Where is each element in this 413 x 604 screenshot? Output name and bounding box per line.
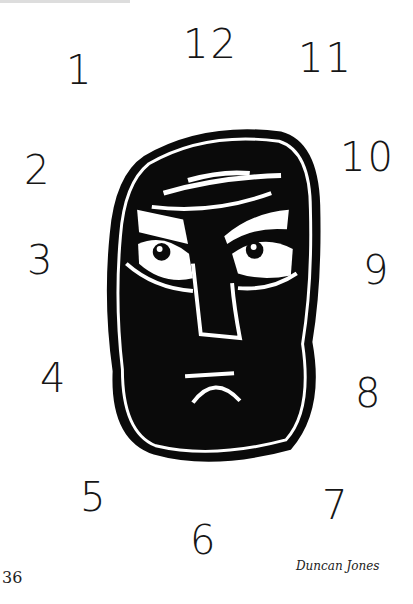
clock-number-9: 9 <box>363 250 390 290</box>
clock-number-6: 6 <box>190 520 217 560</box>
clock-number-12: 12 <box>183 24 238 64</box>
clock-number-5: 5 <box>80 477 107 517</box>
cut-off-header <box>0 0 130 3</box>
clock-number-7: 7 <box>322 485 349 525</box>
clock-number-3: 3 <box>27 240 54 280</box>
author-credit: Duncan Jones <box>296 559 380 573</box>
linocut-face-illustration <box>95 113 330 473</box>
clock-number-8: 8 <box>355 373 382 413</box>
clock-number-11: 11 <box>298 38 353 78</box>
page-number: 36 <box>2 568 22 587</box>
clock-number-4: 4 <box>40 358 67 398</box>
clock-number-1: 1 <box>66 50 93 90</box>
clock-number-2: 2 <box>24 150 51 190</box>
clock-number-10: 10 <box>340 137 395 177</box>
